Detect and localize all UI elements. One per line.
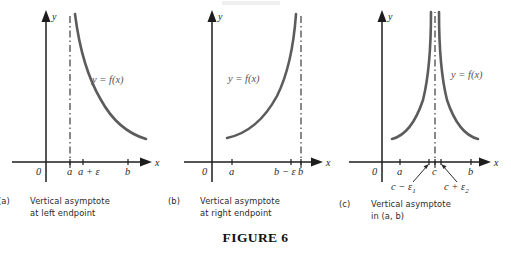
y-axis-label-c: y	[387, 11, 393, 22]
tick-label-b: b	[298, 166, 303, 177]
panel-a-caption: (a)Vertical asymptote at left endpoint	[0, 196, 170, 219]
origin-label-a: 0	[36, 166, 42, 177]
panel-b-caption-line1: Vertical asymptote	[200, 196, 280, 206]
panel-b: y x 0 a b − ε b y = f(x) (b)Vertical asy…	[170, 0, 340, 256]
tick-label-a: a	[67, 166, 72, 177]
y-axis-a	[42, 10, 51, 182]
x-axis-label-c: x	[493, 157, 499, 168]
panel-c-tag: (c)	[355, 199, 371, 211]
tick-label-c: c	[432, 166, 437, 177]
curve-c-left	[392, 12, 431, 139]
tick-label-b: b	[468, 166, 473, 177]
origin-label-c: 0	[372, 166, 378, 177]
curve-label-b: y = f(x)	[227, 73, 260, 85]
pointer-label-c-minus-eps1: c − ε1	[391, 181, 416, 195]
y-axis-label-b: y	[217, 11, 223, 22]
tick-label-a-plus-eps: a + ε	[78, 166, 101, 177]
y-axis-b	[208, 10, 217, 182]
panel-c-caption-line1: Vertical asymptote	[371, 199, 451, 209]
tick-label-b-minus-eps: b − ε	[274, 166, 297, 177]
panel-c-caption-line2: in (a, b)	[371, 211, 404, 221]
panel-a-tag: (a)	[14, 196, 30, 208]
tick-label-b: b	[125, 166, 130, 177]
curve-label-a: y = f(x)	[91, 74, 124, 86]
curve-label-c: y = f(x)	[450, 69, 483, 81]
panel-b-caption: (b)Vertical asymptote at right endpoint	[170, 196, 340, 219]
y-axis-c	[378, 10, 387, 182]
tick-label-a: a	[229, 166, 234, 177]
x-axis-label-a: x	[154, 157, 160, 168]
pointer-c-minus-eps1	[413, 164, 429, 182]
x-axis-label-b: x	[325, 157, 331, 168]
panel-c-plot: y x 0 a c b y = f(x)	[341, 0, 511, 190]
panel-b-plot: y x 0 a b − ε b y = f(x)	[170, 0, 340, 190]
pointer-c-plus-eps2	[441, 164, 457, 182]
panel-a-caption-line1: Vertical asymptote	[30, 196, 110, 206]
panel-c-caption: (c)Vertical asymptote in (a, b)	[341, 199, 511, 222]
y-axis-label-a: y	[51, 11, 57, 22]
pointer-label-c-plus-eps2: c + ε2	[444, 181, 469, 195]
figure-number: FIGURE 6	[0, 230, 511, 246]
figure-6: y x 0 a a + ε b y = f(x) (a)Vertic	[0, 0, 511, 256]
panel-a-plot: y x 0 a a + ε b y = f(x)	[0, 0, 170, 190]
panel-b-caption-line2: at right endpoint	[200, 208, 272, 218]
tick-label-a: a	[397, 166, 402, 177]
panel-b-tag: (b)	[184, 196, 200, 208]
panel-c: y x 0 a c b y = f(x)	[341, 0, 511, 256]
panel-a: y x 0 a a + ε b y = f(x) (a)Vertic	[0, 0, 170, 256]
panel-a-caption-line2: at left endpoint	[30, 208, 95, 218]
origin-label-b: 0	[202, 166, 208, 177]
